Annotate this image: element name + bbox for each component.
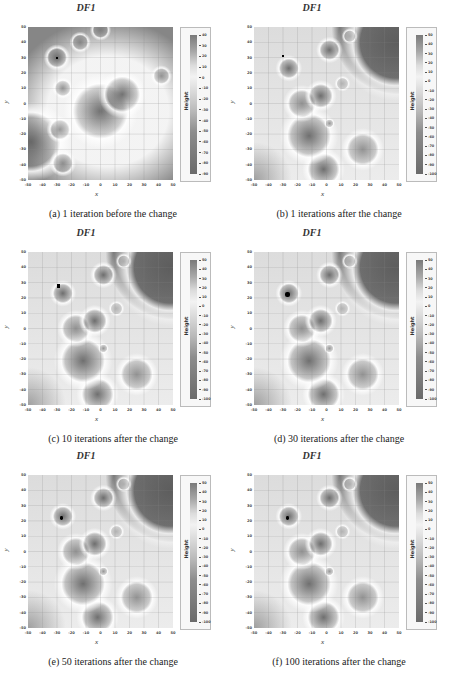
colorbar-tick-label: 10 [199, 518, 207, 522]
x-tick-label: 40 [152, 183, 166, 187]
y-tick-label: -10 [240, 342, 252, 346]
y-tick-label: 40 [240, 488, 252, 492]
heatmap-surface [254, 27, 399, 180]
y-tick-label: -40 [14, 388, 26, 392]
x-tick-label: 40 [378, 408, 392, 412]
y-axis-label: y [228, 100, 236, 103]
colorbar-tick-label: -10 [199, 86, 208, 90]
y-tick-label: 0 [14, 327, 26, 331]
x-tick-label: 10 [108, 631, 122, 635]
y-tick-label: -30 [14, 372, 26, 376]
x-tick-label: 0 [94, 183, 108, 187]
colorbar-tick-label: -60 [199, 583, 208, 587]
colorbar-tick-label: -100 [425, 620, 437, 624]
colorbar-tick-label: -70 [425, 144, 434, 148]
x-tick-label: -40 [262, 408, 276, 412]
colorbar: Height 50403020100-10-20-30-40-50-60-70-… [406, 475, 437, 630]
y-tick-label: 30 [240, 504, 252, 508]
colorbar-tick-label: 30 [425, 500, 433, 504]
heatmap-plot [254, 252, 399, 405]
y-tick-label: -40 [240, 611, 252, 615]
colorbar-gradient [190, 483, 197, 622]
population-marker [282, 55, 284, 57]
y-tick-label: 10 [240, 86, 252, 90]
y-axis-label: y [228, 548, 236, 551]
x-tick-label: -20 [291, 408, 305, 412]
x-tick-label: -30 [50, 631, 64, 635]
y-tick-label: 30 [240, 281, 252, 285]
heatmap-plot [28, 252, 173, 405]
y-tick-label: 50 [240, 473, 252, 477]
y-tick-label: 50 [240, 250, 252, 254]
x-tick-label: 30 [363, 631, 377, 635]
colorbar-tick-label: -90 [199, 611, 208, 615]
y-tick-label: 40 [14, 265, 26, 269]
colorbar-label: Height [409, 317, 415, 336]
colorbar-tick-label: -30 [199, 108, 208, 112]
y-tick-label: -20 [240, 132, 252, 136]
x-tick-label: 50 [392, 183, 406, 187]
x-tick-label: -50 [21, 183, 35, 187]
y-tick-label: -10 [14, 342, 26, 346]
colorbar-tick-label: -20 [425, 546, 434, 550]
x-tick-label: -50 [21, 408, 35, 412]
x-tick-label: -20 [65, 631, 79, 635]
colorbar-tick-label: -80 [425, 153, 434, 157]
colorbar: Height 403020100-10-20-30-40-50-60-70-80… [180, 27, 211, 182]
panel-title: DF1 [226, 450, 398, 461]
colorbar-tick-label: -10 [425, 314, 434, 318]
heatmap-surface [28, 475, 173, 628]
colorbar-label: Height [183, 317, 189, 336]
population-marker [57, 284, 60, 288]
x-tick-label: 20 [123, 631, 137, 635]
x-tick-label: -10 [305, 408, 319, 412]
y-tick-label: 0 [14, 550, 26, 554]
x-tick-label: -10 [79, 408, 93, 412]
x-tick-label: 30 [137, 408, 151, 412]
y-tick-label: -30 [240, 372, 252, 376]
colorbar-tick-label: 0 [425, 304, 430, 308]
colorbar-tick-label: -90 [425, 611, 434, 615]
y-tick-label: 30 [14, 56, 26, 60]
colorbar-tick-label: 40 [199, 490, 207, 494]
y-tick-label: 0 [14, 102, 26, 106]
colorbar-tick-label: -10 [425, 89, 434, 93]
colorbar: Height 50403020100-10-20-30-40-50-60-70-… [180, 475, 211, 630]
colorbar-tick-label: -20 [199, 546, 208, 550]
panel-title: DF1 [226, 2, 398, 13]
y-tick-label: 0 [240, 102, 252, 106]
colorbar-gradient [416, 483, 423, 622]
heatmap-plot [254, 475, 399, 628]
y-tick-label: -40 [240, 163, 252, 167]
panel-title: DF1 [0, 227, 172, 238]
x-tick-label: -10 [305, 631, 319, 635]
panel-d: DF1 50403020100-10-20-30-40-50 -50-40-30… [226, 225, 452, 450]
x-tick-label: -10 [79, 183, 93, 187]
x-tick-label: 30 [137, 631, 151, 635]
heatmap-surface [254, 475, 399, 628]
x-tick-label: 10 [334, 408, 348, 412]
x-tick-label: 0 [320, 631, 334, 635]
colorbar-tick-label: 40 [425, 490, 433, 494]
heatmap-surface [28, 27, 173, 180]
y-tick-label: 10 [240, 534, 252, 538]
x-tick-label: 0 [320, 183, 334, 187]
y-tick-label: 20 [240, 519, 252, 523]
colorbar-tick-label: 10 [425, 70, 433, 74]
x-tick-label: 0 [94, 408, 108, 412]
x-tick-label: -40 [262, 183, 276, 187]
y-tick-label: -50 [14, 178, 26, 182]
population-marker [286, 516, 290, 520]
y-tick-label: -50 [14, 626, 26, 630]
colorbar-tick-label: -70 [199, 151, 208, 155]
x-tick-label: -40 [36, 408, 50, 412]
x-tick-label: -30 [50, 408, 64, 412]
y-tick-label: 50 [14, 250, 26, 254]
x-tick-label: 40 [378, 183, 392, 187]
y-axis-label: y [2, 100, 10, 103]
heatmap-plot [28, 475, 173, 628]
colorbar-tick-label: -80 [199, 378, 208, 382]
y-tick-label: 40 [240, 40, 252, 44]
colorbar-tick-label: -70 [425, 592, 434, 596]
x-axis-label: x [95, 190, 98, 198]
